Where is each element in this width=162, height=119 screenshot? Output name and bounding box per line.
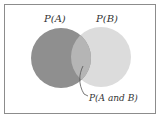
label-set-a: P(A) bbox=[43, 13, 66, 24]
venn-diagram: P(A) P(B) P(A and B) bbox=[0, 0, 162, 119]
label-intersection: P(A and B) bbox=[88, 93, 138, 103]
label-set-b: P(B) bbox=[95, 13, 118, 24]
